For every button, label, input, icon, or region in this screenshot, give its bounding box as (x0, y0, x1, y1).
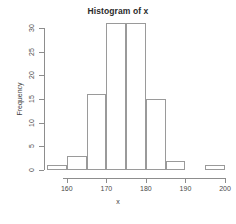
x-axis-tick (146, 178, 147, 183)
y-axis-tick-label: 0 (27, 168, 34, 172)
x-axis-tick (67, 178, 68, 183)
plot-area: 051015202530 Frequency 160170180190200 x (0, 0, 236, 224)
histogram-bar (146, 99, 166, 170)
y-axis-tick (39, 123, 44, 124)
y-axis-title-wrap: Frequency (19, 99, 20, 100)
histogram-bar (106, 23, 126, 170)
y-axis-tick-label-wrap: 10 (24, 123, 37, 124)
x-axis-line (63, 178, 225, 179)
y-axis-tick-label: 15 (27, 95, 34, 103)
histogram-bar (47, 165, 67, 170)
x-axis-tick-label: 200 (219, 185, 231, 192)
y-axis-tick (39, 146, 44, 147)
histogram-bar (126, 23, 146, 170)
x-axis-tick-label: 170 (100, 185, 112, 192)
y-axis-tick-label: 10 (27, 119, 34, 127)
histogram-bar (87, 94, 107, 170)
histogram-screenshot: Histogram of x 051015202530 Frequency 16… (0, 0, 236, 224)
y-axis-tick-label-wrap: 25 (24, 52, 37, 53)
x-axis-tick-label: 190 (180, 185, 192, 192)
y-axis-tick-label: 30 (27, 24, 34, 32)
y-axis-tick-label-wrap: 20 (24, 75, 37, 76)
y-axis-tick-label-wrap: 30 (24, 28, 37, 29)
y-axis-tick-label-wrap: 0 (24, 170, 37, 171)
y-axis-tick (39, 52, 44, 53)
histogram-bar (166, 161, 186, 170)
y-axis-tick (39, 28, 44, 29)
x-axis-tick (225, 178, 226, 183)
x-axis-tick (106, 178, 107, 183)
y-axis-title: Frequency (16, 82, 23, 115)
y-axis-tick (39, 99, 44, 100)
y-axis-tick-label: 5 (27, 144, 34, 148)
histogram-bar (67, 156, 87, 170)
y-axis-tick (39, 75, 44, 76)
y-axis-tick (39, 170, 44, 171)
x-axis-title: x (0, 198, 236, 205)
x-axis-tick (185, 178, 186, 183)
y-axis-tick-label: 25 (27, 48, 34, 56)
y-axis-tick-label-wrap: 15 (24, 99, 37, 100)
x-axis-tick-label: 180 (140, 185, 152, 192)
y-axis-tick-label: 20 (27, 71, 34, 79)
y-axis-tick-label-wrap: 5 (24, 146, 37, 147)
histogram-bar (205, 165, 225, 170)
x-axis-tick-label: 160 (61, 185, 73, 192)
y-axis-line (44, 28, 45, 170)
